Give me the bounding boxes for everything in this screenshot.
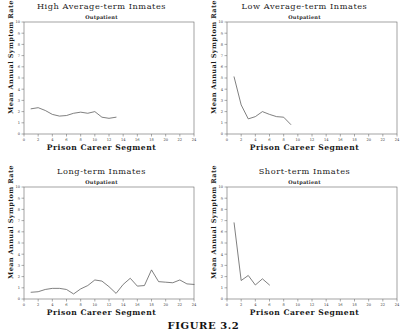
svg-text:22: 22 [381,303,386,307]
svg-text:9: 9 [18,32,21,36]
svg-text:0: 0 [18,132,21,136]
svg-text:10: 10 [15,185,20,189]
plot-area: 024681012141618202224012345678910 [0,165,203,330]
svg-text:24: 24 [395,303,400,307]
svg-text:22: 22 [178,303,183,307]
svg-text:10: 10 [296,303,301,307]
svg-text:20: 20 [163,138,168,142]
svg-text:5: 5 [18,76,21,80]
svg-text:0: 0 [18,297,21,301]
y-axis-label: Mean Annual Symptom Rate [210,169,218,279]
panel-long-term: Long-term Inmates Outpatient 02468101214… [0,165,203,330]
plot-area: 024681012141618202224012345678910 [203,0,406,165]
x-axis-label: Prison Career Segment [0,308,203,317]
svg-text:20: 20 [366,303,371,307]
svg-text:4: 4 [18,253,21,257]
svg-text:7: 7 [18,219,21,223]
svg-text:0: 0 [226,138,229,142]
svg-text:7: 7 [221,219,224,223]
svg-text:4: 4 [51,303,54,307]
svg-text:16: 16 [338,138,343,142]
svg-text:10: 10 [15,20,20,24]
x-axis-label: Prison Career Segment [0,143,203,152]
svg-text:18: 18 [352,303,357,307]
plot-area: 024681012141618202224012345678910 [0,0,203,165]
svg-text:20: 20 [366,138,371,142]
svg-text:24: 24 [192,303,197,307]
svg-text:16: 16 [135,303,140,307]
panel-low-average-term: Low Average-term Inmates Outpatient 0246… [203,0,406,165]
svg-text:8: 8 [80,303,83,307]
plot-area: 024681012141618202224012345678910 [203,165,406,330]
svg-text:8: 8 [221,43,224,47]
svg-text:8: 8 [18,43,21,47]
x-axis-label: Prison Career Segment [203,143,406,152]
svg-text:16: 16 [338,303,343,307]
svg-text:6: 6 [65,303,68,307]
svg-text:14: 14 [324,303,329,307]
svg-text:12: 12 [310,303,315,307]
y-axis-label: Mean Annual Symptom Rate [7,169,15,279]
svg-text:6: 6 [268,138,271,142]
svg-text:4: 4 [18,88,21,92]
svg-text:5: 5 [18,241,21,245]
svg-text:10: 10 [93,303,98,307]
svg-text:22: 22 [381,138,386,142]
svg-text:2: 2 [240,303,242,307]
y-axis-label: Mean Annual Symptom Rate [210,4,218,114]
svg-text:10: 10 [218,20,223,24]
x-axis-label: Prison Career Segment [203,308,406,317]
svg-text:6: 6 [18,230,21,234]
svg-text:1: 1 [221,286,223,290]
svg-text:16: 16 [135,138,140,142]
svg-text:3: 3 [221,264,224,268]
svg-text:0: 0 [23,303,26,307]
svg-text:0: 0 [226,303,229,307]
panel-short-term: Short-term Inmates Outpatient 0246810121… [203,165,406,330]
y-axis-label: Mean Annual Symptom Rate [7,4,15,114]
svg-text:8: 8 [221,208,224,212]
svg-text:4: 4 [254,138,257,142]
svg-text:4: 4 [51,138,54,142]
svg-text:8: 8 [283,303,286,307]
svg-text:8: 8 [283,138,286,142]
svg-text:22: 22 [178,138,183,142]
svg-text:2: 2 [18,110,20,114]
svg-text:12: 12 [107,303,112,307]
svg-text:2: 2 [37,138,39,142]
svg-text:2: 2 [221,275,223,279]
svg-text:6: 6 [18,65,21,69]
svg-text:9: 9 [18,197,21,201]
svg-text:4: 4 [254,303,257,307]
svg-text:6: 6 [65,138,68,142]
svg-text:6: 6 [221,230,224,234]
svg-text:18: 18 [352,138,357,142]
figure-container: High Average-term Inmates Outpatient 024… [0,0,407,331]
svg-text:5: 5 [221,76,224,80]
svg-text:14: 14 [121,303,126,307]
svg-text:2: 2 [18,275,20,279]
svg-text:12: 12 [310,138,315,142]
svg-text:8: 8 [80,138,83,142]
svg-text:9: 9 [221,197,224,201]
panel-high-average-term: High Average-term Inmates Outpatient 024… [0,0,203,165]
svg-text:7: 7 [221,54,224,58]
svg-text:9: 9 [221,32,224,36]
svg-text:6: 6 [268,303,271,307]
svg-text:2: 2 [37,303,39,307]
svg-text:3: 3 [18,264,21,268]
svg-text:20: 20 [163,303,168,307]
svg-text:4: 4 [221,253,224,257]
svg-text:3: 3 [221,99,224,103]
figure-caption: FIGURE 3.2 [0,320,407,331]
svg-text:18: 18 [149,303,154,307]
svg-text:14: 14 [324,138,329,142]
svg-text:14: 14 [121,138,126,142]
svg-text:0: 0 [221,132,224,136]
svg-text:3: 3 [18,99,21,103]
svg-text:4: 4 [221,88,224,92]
svg-text:1: 1 [18,286,20,290]
svg-text:12: 12 [107,138,112,142]
svg-text:6: 6 [221,65,224,69]
svg-text:8: 8 [18,208,21,212]
